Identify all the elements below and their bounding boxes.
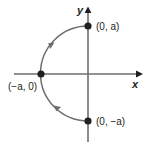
y-axis-label: y (76, 4, 84, 16)
x-axis (14, 70, 143, 77)
y-axis-arrowhead-icon (85, 7, 92, 14)
top-point-label: (0, a) (96, 21, 119, 32)
left-point-dot (37, 70, 44, 77)
top-point-dot (84, 22, 91, 29)
bottom-point-dot (84, 117, 91, 124)
x-axis-label: x (131, 78, 139, 90)
x-axis-arrowhead-icon (136, 70, 143, 77)
math-figure: y x (0, a) (−a, 0) (0, −a) (0, 0, 148, 148)
left-point-label: (−a, 0) (8, 81, 37, 92)
curve-arrowhead-lower-icon (52, 103, 61, 112)
bottom-point-label: (0, −a) (96, 116, 125, 127)
figure-canvas: y x (0, a) (−a, 0) (0, −a) (0, 0, 148, 148)
